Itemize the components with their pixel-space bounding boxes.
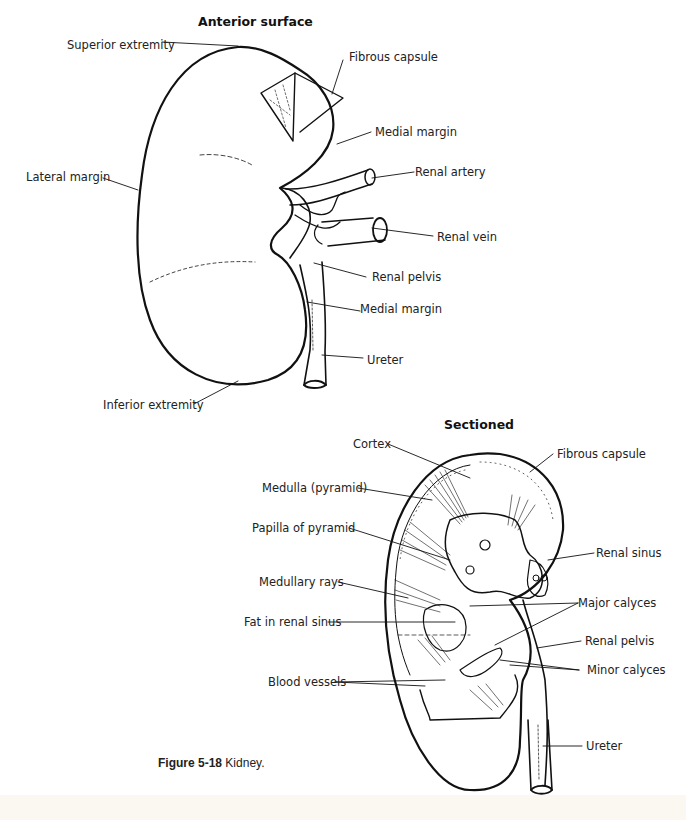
label-fibrous-capsule-anterior: Fibrous capsule: [349, 50, 438, 64]
label-renal-pelvis-anterior: Renal pelvis: [372, 270, 441, 284]
label-superior-extremity: Superior extremity: [67, 38, 175, 52]
label-medial-margin-lower: Medial margin: [360, 302, 442, 316]
label-lateral-margin: Lateral margin: [26, 170, 110, 184]
figure-caption: Figure 5-18 Kidney.: [158, 756, 265, 770]
leader-lines: [103, 42, 594, 746]
kidney-figure: Anterior surface Sectioned Superior extr…: [0, 0, 686, 820]
sectioned-heading: Sectioned: [444, 417, 514, 432]
label-renal-pelvis-sectioned: Renal pelvis: [585, 634, 654, 648]
label-papilla-of-pyramid: Papilla of pyramid: [252, 521, 355, 535]
label-blood-vessels: Blood vessels: [268, 675, 346, 689]
label-fibrous-capsule-sectioned: Fibrous capsule: [557, 447, 646, 461]
anterior-kidney-drawing: [137, 47, 387, 388]
label-renal-artery: Renal artery: [415, 165, 486, 179]
label-renal-sinus: Renal sinus: [596, 546, 662, 560]
label-fat-in-renal-sinus: Fat in renal sinus: [244, 615, 341, 629]
label-renal-vein: Renal vein: [437, 230, 497, 244]
label-medulla-pyramid: Medulla (pyramid): [262, 481, 367, 495]
label-major-calyces: Major calyces: [578, 596, 656, 610]
label-cortex: Cortex: [353, 437, 391, 451]
label-ureter-anterior: Ureter: [367, 353, 403, 367]
anterior-surface-heading: Anterior surface: [198, 14, 313, 29]
label-ureter-sectioned: Ureter: [586, 739, 622, 753]
figure-number: Figure 5-18: [158, 756, 222, 770]
page-bottom-band: [0, 795, 686, 820]
label-inferior-extremity: Inferior extremity: [103, 398, 204, 412]
label-medullary-rays: Medullary rays: [259, 575, 344, 589]
label-minor-calyces: Minor calyces: [587, 663, 666, 677]
figure-title: Kidney.: [222, 756, 264, 770]
label-medial-margin-upper: Medial margin: [375, 125, 457, 139]
